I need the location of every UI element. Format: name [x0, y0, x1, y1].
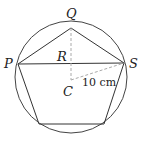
label-c: C	[63, 84, 73, 99]
label-p: P	[3, 56, 13, 71]
label-s: S	[129, 56, 138, 71]
pentagon-diagram: Q P S R C 10 cm	[0, 0, 144, 141]
label-radius: 10 cm	[82, 76, 117, 89]
label-q: Q	[66, 6, 77, 21]
label-r: R	[56, 49, 67, 64]
